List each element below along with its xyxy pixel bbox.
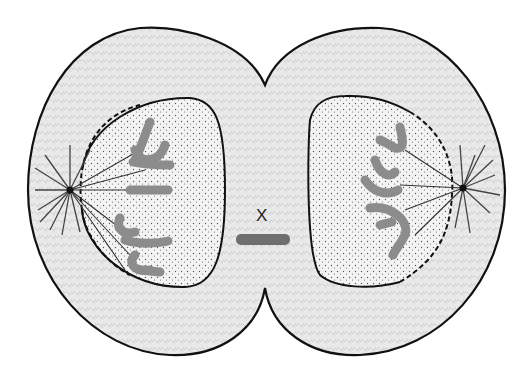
label-x: X xyxy=(256,206,267,226)
cell-division-diagram: X xyxy=(0,0,532,390)
label-x-structure xyxy=(236,234,290,245)
right-centrosome xyxy=(460,185,467,192)
left-centrosome xyxy=(67,187,74,194)
